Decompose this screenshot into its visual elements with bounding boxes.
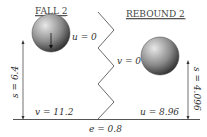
- fall-v-label: v = 11.2: [35, 107, 74, 117]
- fall-distance-arrowhead-top-icon: [22, 40, 25, 44]
- diagram-canvas: FALL 2 u = 0 s = 6.4 v = 11.2 REBOUND 2 …: [0, 0, 207, 137]
- fall-distance-label: s = 6.4: [10, 66, 20, 98]
- restitution-label: e = 0.8: [89, 124, 122, 134]
- rebound-distance-arrowhead-top-icon: [187, 60, 190, 64]
- rebound-distance-label: s = 4.096: [192, 67, 202, 111]
- rebound-title: REBOUND 2: [126, 9, 185, 19]
- zigzag-separator: [98, 12, 114, 119]
- fall-u-label: u = 0: [72, 32, 97, 42]
- fall-panel: FALL 2 u = 0 s = 6.4 v = 11.2: [10, 6, 97, 120]
- rebounding-ball: [141, 37, 179, 75]
- rebound-v-label: v = 0: [117, 56, 141, 66]
- rebound-panel: REBOUND 2 v = 0 s = 4.096 u = 8.96: [117, 9, 202, 120]
- rebound-u-label: u = 8.96: [140, 107, 179, 117]
